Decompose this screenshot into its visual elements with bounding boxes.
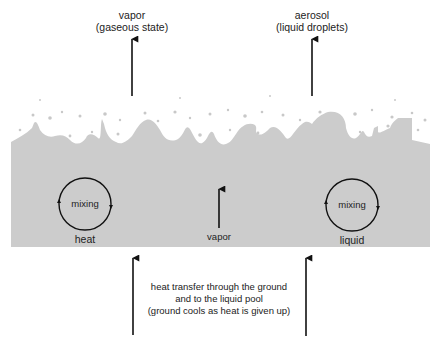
- aerosol-label-line2: (liquid droplets): [257, 21, 367, 33]
- pool-vapor-label: vapor: [194, 231, 244, 243]
- ground-label-line1: heat transfer through the ground: [139, 281, 299, 293]
- aerosol-droplets: [19, 95, 427, 137]
- liquid-label: liquid: [327, 234, 377, 246]
- heat-label: heat: [60, 233, 110, 245]
- mixing-label-right: mixing: [327, 199, 377, 211]
- ground-label-line2: and to the liquid pool: [139, 293, 299, 305]
- mixing-label-left: mixing: [60, 198, 110, 210]
- aerosol-label-line1: aerosol: [257, 9, 367, 21]
- ground-label-line3: (ground cools as heat is given up): [139, 305, 299, 317]
- vapor-label-line2: (gaseous state): [82, 21, 182, 33]
- vapor-label: vapor (gaseous state): [82, 9, 182, 33]
- ground-heat-transfer-label: heat transfer through the ground and to …: [139, 281, 299, 317]
- vapor-label-line1: vapor: [82, 9, 182, 21]
- aerosol-label: aerosol (liquid droplets): [257, 9, 367, 33]
